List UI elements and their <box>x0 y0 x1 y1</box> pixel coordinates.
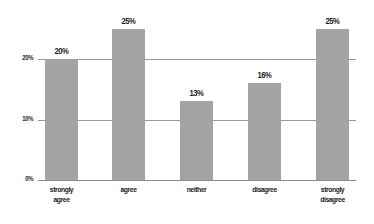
x-tick-label-line: neither <box>171 185 223 195</box>
gridline <box>38 59 356 60</box>
x-tick-label-line: strongly <box>36 185 88 195</box>
x-tick-label: stronglyagree <box>36 185 88 205</box>
bar-neither <box>180 101 213 180</box>
x-axis-line <box>38 180 356 181</box>
bar-disagree <box>248 83 281 180</box>
x-tick-label-line: strongly <box>307 185 359 195</box>
x-tick-label: stronglydisagree <box>307 185 359 205</box>
value-label: 13% <box>176 88 218 98</box>
value-label: 20% <box>41 46 83 56</box>
x-tick-label: agree <box>103 185 155 195</box>
x-tick-label-line: disagree <box>239 185 291 195</box>
bar-agree <box>112 29 145 180</box>
x-tick-label: neither <box>171 185 223 195</box>
x-tick-label-line: agree <box>36 195 88 205</box>
x-tick-label: disagree <box>239 185 291 195</box>
x-tick-label-line: agree <box>103 185 155 195</box>
y-tick-label: 0% <box>8 175 34 182</box>
bar-strongly-disagree <box>316 29 349 180</box>
value-label: 16% <box>244 70 286 80</box>
value-label: 25% <box>312 16 354 26</box>
x-tick-label-line: disagree <box>307 195 359 205</box>
bar-chart: 0%10%20%20%stronglyagree25%agree13%neith… <box>0 0 374 224</box>
value-label: 25% <box>108 16 150 26</box>
bar-strongly-agree <box>45 59 78 180</box>
y-tick-label: 10% <box>8 115 34 122</box>
y-tick-label: 20% <box>8 54 34 61</box>
